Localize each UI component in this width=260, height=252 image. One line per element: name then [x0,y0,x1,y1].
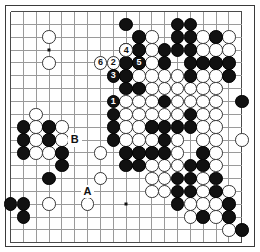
white-stone[interactable]: 4 [119,43,133,57]
black-stone[interactable] [196,210,210,224]
white-stone[interactable] [209,197,223,211]
white-stone[interactable] [42,30,56,44]
white-stone[interactable] [209,120,223,134]
white-stone[interactable] [119,120,133,134]
black-stone[interactable] [132,146,146,160]
black-stone[interactable] [209,185,223,199]
white-stone[interactable] [145,185,159,199]
black-stone[interactable] [107,120,121,134]
black-stone[interactable] [222,197,236,211]
white-stone[interactable] [222,43,236,57]
white-stone[interactable] [184,210,198,224]
white-stone[interactable] [196,95,210,109]
white-stone[interactable] [29,146,43,160]
white-stone[interactable] [132,133,146,147]
black-stone[interactable]: 3 [107,69,121,83]
white-stone[interactable] [55,120,69,134]
white-stone[interactable] [209,108,223,122]
black-stone[interactable] [119,69,133,83]
white-stone[interactable] [119,133,133,147]
black-stone[interactable] [184,43,198,57]
white-stone[interactable] [222,30,236,44]
black-stone[interactable] [42,120,56,134]
white-stone[interactable]: 2 [107,56,121,70]
black-stone[interactable] [42,172,56,186]
black-stone[interactable] [171,43,185,57]
black-stone[interactable] [119,18,133,32]
black-stone[interactable] [119,56,133,70]
black-stone[interactable] [119,146,133,160]
white-stone[interactable] [94,146,108,160]
white-stone[interactable] [209,95,223,109]
white-stone[interactable] [209,133,223,147]
black-stone[interactable] [17,210,31,224]
white-stone[interactable] [55,133,69,147]
white-stone[interactable] [132,108,146,122]
white-stone[interactable] [235,133,249,147]
white-stone[interactable] [132,95,146,109]
black-stone[interactable] [184,30,198,44]
white-stone[interactable]: 6 [94,56,108,70]
black-stone[interactable] [55,146,69,160]
black-stone[interactable] [17,146,31,160]
black-stone[interactable] [107,108,121,122]
white-stone[interactable] [145,56,159,70]
black-stone[interactable] [235,95,249,109]
white-stone[interactable] [196,108,210,122]
white-stone[interactable] [196,197,210,211]
white-stone[interactable] [145,108,159,122]
black-stone[interactable] [158,56,172,70]
black-stone[interactable] [222,210,236,224]
white-stone[interactable] [209,210,223,224]
white-stone[interactable] [145,30,159,44]
white-stone[interactable] [42,56,56,70]
white-stone[interactable] [132,120,146,134]
black-stone[interactable] [17,120,31,134]
black-stone[interactable] [209,30,223,44]
black-stone[interactable] [209,172,223,186]
white-stone[interactable] [196,30,210,44]
black-stone[interactable] [184,69,198,83]
black-stone[interactable] [132,82,146,96]
black-stone[interactable] [235,223,249,237]
white-stone[interactable] [222,185,236,199]
white-stone[interactable] [42,197,56,211]
black-stone[interactable] [184,56,198,70]
white-stone[interactable] [145,82,159,96]
black-stone[interactable] [196,56,210,70]
white-stone[interactable] [145,43,159,57]
black-stone[interactable] [17,133,31,147]
white-stone[interactable] [184,197,198,211]
white-stone[interactable] [171,146,185,160]
black-stone[interactable]: 5 [132,56,146,70]
white-stone[interactable] [209,146,223,160]
white-stone[interactable] [196,43,210,57]
white-stone[interactable] [29,133,43,147]
white-stone[interactable] [119,95,133,109]
black-stone[interactable] [145,146,159,160]
black-stone[interactable] [107,133,121,147]
white-stone[interactable] [145,172,159,186]
white-stone[interactable] [29,120,43,134]
white-stone[interactable] [132,69,146,83]
white-stone[interactable] [196,185,210,199]
white-stone[interactable] [171,133,185,147]
black-stone[interactable] [42,133,56,147]
black-stone[interactable] [222,69,236,83]
black-stone[interactable] [17,197,31,211]
white-stone[interactable] [145,133,159,147]
black-stone[interactable] [184,108,198,122]
white-stone[interactable] [119,108,133,122]
white-stone[interactable] [196,133,210,147]
black-stone[interactable] [158,146,172,160]
white-stone[interactable] [29,108,43,122]
black-stone[interactable] [196,146,210,160]
white-stone[interactable] [171,69,185,83]
white-stone[interactable] [145,95,159,109]
white-stone[interactable] [145,69,159,83]
black-stone[interactable] [184,120,198,134]
black-stone[interactable]: 1 [107,95,121,109]
black-stone[interactable] [209,56,223,70]
white-stone[interactable] [196,120,210,134]
white-stone[interactable] [42,146,56,160]
